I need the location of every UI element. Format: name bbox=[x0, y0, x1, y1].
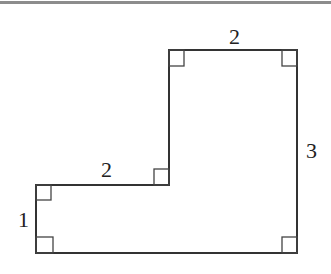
right-angle-marker-top-right bbox=[282, 50, 297, 66]
label-top: 2 bbox=[229, 24, 240, 49]
label-left: 1 bbox=[18, 207, 29, 232]
l-shape-outline bbox=[36, 50, 297, 253]
label-right: 3 bbox=[306, 138, 317, 163]
right-angle-marker-inner bbox=[154, 169, 169, 185]
right-angle-marker-bottom-right bbox=[282, 237, 297, 253]
label-step-top: 2 bbox=[101, 157, 112, 182]
l-shape-diagram: 2 3 2 1 bbox=[0, 0, 331, 274]
right-angle-marker-bottom-left bbox=[36, 237, 53, 253]
right-angle-marker-top-left bbox=[169, 50, 184, 66]
right-angle-marker-step-left bbox=[36, 185, 51, 200]
